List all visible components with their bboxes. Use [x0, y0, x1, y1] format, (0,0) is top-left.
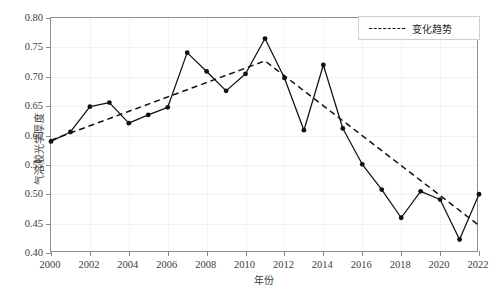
x-tick-mark	[479, 251, 480, 256]
y-axis-title: 气溶胶光学厚度	[31, 112, 46, 184]
legend-dashed-line-icon	[369, 28, 405, 29]
data-point-marker	[302, 128, 307, 133]
y-tick-label: 0.75	[3, 41, 43, 52]
y-tick-label: 0.45	[3, 217, 43, 228]
y-tick-label: 0.65	[3, 100, 43, 111]
x-tick-label: 2018	[390, 259, 411, 270]
x-tick-label: 2012	[273, 259, 294, 270]
data-point-marker	[68, 130, 73, 135]
data-point-marker	[360, 162, 365, 167]
data-point-marker	[165, 105, 170, 110]
data-point-marker	[107, 100, 112, 105]
y-tick-label: 0.60	[3, 129, 43, 140]
data-point-marker	[88, 104, 93, 109]
y-tick-label: 0.50	[3, 188, 43, 199]
data-point-markers	[49, 36, 482, 242]
x-tick-label: 2006	[156, 259, 177, 270]
data-point-marker	[282, 76, 287, 81]
x-tick-label: 2022	[468, 259, 489, 270]
x-tick-label: 2016	[351, 259, 372, 270]
plot-area	[50, 17, 478, 252]
data-point-marker	[438, 197, 443, 202]
data-point-marker	[185, 50, 190, 55]
data-point-marker	[340, 126, 345, 131]
x-tick-label: 2010	[234, 259, 255, 270]
data-point-marker	[418, 189, 423, 194]
x-axis-title: 年份	[254, 272, 274, 287]
data-point-marker	[126, 121, 131, 126]
data-point-marker	[457, 237, 462, 242]
y-tick-label: 0.40	[3, 247, 43, 258]
data-point-marker	[379, 187, 384, 192]
data-point-marker	[399, 215, 404, 220]
data-point-marker	[224, 88, 229, 93]
chart-lines-layer	[51, 18, 479, 253]
data-point-marker	[243, 71, 248, 76]
data-point-marker	[321, 63, 326, 68]
x-tick-label: 2008	[195, 259, 216, 270]
x-tick-label: 2002	[78, 259, 99, 270]
legend-label-trend: 变化趋势	[412, 21, 452, 36]
x-tick-label: 2014	[312, 259, 333, 270]
data-point-marker	[146, 113, 151, 118]
y-tick-label: 0.70	[3, 70, 43, 81]
y-tick-label: 0.80	[3, 12, 43, 23]
x-tick-label: 2000	[40, 259, 61, 270]
data-point-marker	[477, 192, 482, 197]
data-point-marker	[49, 139, 54, 144]
legend-box: 变化趋势	[358, 16, 480, 40]
x-tick-label: 2004	[117, 259, 138, 270]
aod-line-series	[51, 39, 479, 240]
data-point-marker	[263, 36, 268, 41]
x-tick-label: 2020	[429, 259, 450, 270]
chart-figure: 气溶胶光学厚度 年份 0.800.750.700.650.600.550.500…	[0, 0, 496, 297]
y-tick-label: 0.55	[3, 158, 43, 169]
data-point-marker	[204, 69, 209, 74]
trend-line-series	[51, 61, 479, 226]
